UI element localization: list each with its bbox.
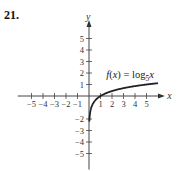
x-tick-label: 2 — [110, 99, 114, 109]
y-tick-label: −2 — [75, 114, 84, 124]
y-tick-label: 2 — [80, 68, 84, 78]
x-tick-label: 1 — [98, 99, 102, 109]
x-tick-label: −3 — [50, 99, 59, 109]
y-tick-label: 5 — [80, 34, 84, 44]
function-label: f(x) = log5x — [106, 69, 154, 83]
x-axis-label: x — [166, 90, 172, 101]
x-tick-label: −5 — [27, 99, 36, 109]
y-tick-label: 1 — [80, 80, 84, 90]
y-tick-label: 4 — [80, 45, 85, 55]
x-tick-label: 3 — [121, 99, 125, 109]
x-axis-arrow-icon — [158, 94, 165, 99]
y-tick-label: −5 — [75, 149, 84, 159]
y-tick-label: −3 — [75, 126, 84, 136]
y-axis-label: y — [85, 11, 91, 22]
log-function-graph: xy−5−4−3−2−11234554321−2−3−4−5f(x) = log… — [0, 0, 177, 171]
y-tick-label: 3 — [80, 57, 84, 67]
x-tick-label: 4 — [133, 99, 138, 109]
y-tick-label: −4 — [75, 137, 85, 147]
x-tick-label: −4 — [38, 99, 48, 109]
x-tick-label: −1 — [73, 99, 82, 109]
x-tick-label: −2 — [61, 99, 70, 109]
x-tick-label: 5 — [144, 99, 148, 109]
